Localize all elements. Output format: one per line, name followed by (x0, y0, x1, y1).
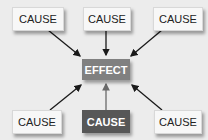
cause-box-bottom-center-highlighted: CAUSE (82, 110, 130, 133)
cause-box-bottom-left: CAUSE (12, 110, 62, 134)
cause-box-bottom-right: CAUSE (154, 110, 202, 134)
arrow-bottom-left (50, 85, 81, 110)
cause-box-top-right: CAUSE (153, 7, 203, 31)
cause-box-top-center: CAUSE (83, 7, 131, 31)
arrow-top-left (48, 30, 80, 56)
cause-box-top-left: CAUSE (12, 7, 64, 31)
arrow-top-right (131, 30, 162, 56)
effect-box: EFFECT (82, 59, 130, 80)
arrow-bottom-right (132, 85, 162, 110)
